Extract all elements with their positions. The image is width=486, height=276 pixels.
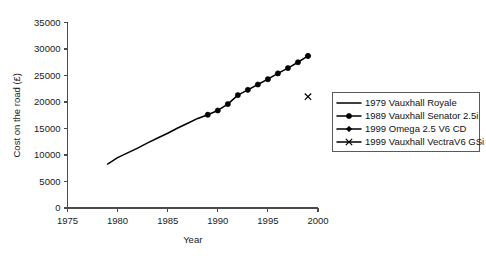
series-1: [205, 53, 310, 117]
legend-marker-filled-diamond-icon: [336, 123, 362, 135]
series-0: [108, 115, 208, 164]
legend-item[interactable]: 1989 Vauxhall Senator 2.5i: [336, 109, 475, 122]
x-tick-label: 1990: [207, 215, 228, 226]
x-axis-ticks: 197519801985199019952000: [57, 208, 329, 226]
y-tick-label: 15000: [34, 123, 60, 134]
legend-label: 1979 Vauxhall Royale: [365, 97, 457, 109]
chart-container: 05000100001500020000250003000035000 1975…: [0, 0, 486, 276]
x-axis-title: Year: [183, 234, 202, 245]
y-tick-label: 5000: [39, 176, 60, 187]
y-tick-label: 30000: [34, 43, 60, 54]
y-tick-label: 20000: [34, 96, 60, 107]
x-tick-label: 1975: [57, 215, 78, 226]
legend-marker-none-icon: [336, 97, 362, 109]
y-axis-title: Cost on the road (£): [11, 73, 22, 158]
y-axis-ticks: 05000100001500020000250003000035000: [34, 17, 67, 214]
y-tick-label: 35000: [34, 17, 60, 28]
legend-label: 1999 Omega 2.5 V6 CD: [365, 123, 466, 135]
series-3: [305, 94, 311, 100]
x-tick-label: 2000: [307, 215, 328, 226]
y-tick-label: 10000: [34, 149, 60, 160]
y-tick-label: 25000: [34, 70, 60, 81]
legend-marker-filled-circle-icon: [336, 110, 362, 122]
legend-item[interactable]: 1999 Omega 2.5 V6 CD: [336, 122, 475, 135]
legend-marker-x-cross-icon: [336, 136, 362, 148]
y-tick-label: 0: [55, 202, 60, 213]
x-tick-label: 1995: [257, 215, 278, 226]
legend-item[interactable]: 1999 Vauxhall VectraV6 GSi: [336, 135, 475, 148]
axis-lines: [68, 23, 319, 209]
legend-label: 1989 Vauxhall Senator 2.5i: [365, 110, 478, 122]
data-series-group: [108, 53, 312, 164]
x-tick-label: 1985: [157, 215, 178, 226]
legend-label: 1999 Vauxhall VectraV6 GSi: [365, 136, 484, 148]
x-tick-label: 1980: [107, 215, 128, 226]
legend-item[interactable]: 1979 Vauxhall Royale: [336, 96, 475, 109]
chart-legend: 1979 Vauxhall Royale1989 Vauxhall Senato…: [332, 92, 480, 152]
